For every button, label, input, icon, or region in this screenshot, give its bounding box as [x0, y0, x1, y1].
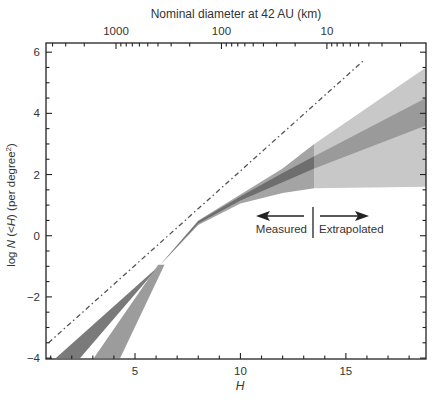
x-tick-label: 15 — [339, 365, 352, 377]
band-6 — [94, 265, 165, 358]
y-tick-label: −2 — [27, 291, 40, 303]
plot-lines — [49, 61, 363, 342]
reference-line — [49, 61, 363, 342]
top-tick-label: 10 — [320, 25, 333, 37]
chart: 51015−4−20246100010010 Nominal diameter … — [0, 0, 443, 403]
y-tick-label: 4 — [34, 107, 41, 119]
y-tick-label: 2 — [34, 169, 40, 181]
band-4 — [160, 156, 314, 265]
band-3 — [160, 144, 314, 265]
y-tick-label: 0 — [34, 230, 40, 242]
top-tick-label: 100 — [212, 25, 231, 37]
measured-label: Measured — [256, 223, 307, 235]
top-tick-label: 1000 — [103, 25, 129, 37]
y-tick-label: −4 — [27, 352, 41, 364]
x-tick-label: 5 — [132, 365, 138, 377]
x-axis-label: H — [236, 379, 245, 393]
measured-extrapolated-annotation: Measured Extrapolated — [256, 207, 384, 238]
y-axis-label: log N (<H) (per degree2) — [4, 143, 18, 267]
plot-fills — [56, 67, 426, 358]
y-tick-label: 6 — [34, 46, 40, 58]
extrapolated-label: Extrapolated — [319, 223, 384, 235]
top-axis-label: Nominal diameter at 42 AU (km) — [151, 7, 322, 21]
x-tick-label: 10 — [234, 365, 247, 377]
axis-tick-labels: 51015−4−20246100010010 — [27, 25, 352, 377]
